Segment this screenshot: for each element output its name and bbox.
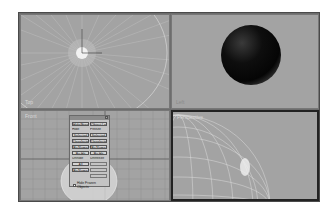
unhide-by-name-button[interactable]: By Name (72, 168, 89, 173)
hide-by-hit-button[interactable]: By Hit (72, 151, 89, 156)
viewport-left[interactable]: Left (171, 14, 319, 109)
close-icon[interactable] (105, 116, 108, 119)
hide-label: Hide (72, 128, 89, 132)
unhide-all-button[interactable]: All (72, 162, 89, 167)
hide-selected-button[interactable]: Selected (72, 133, 89, 138)
unfreeze-all-button[interactable] (90, 162, 107, 167)
unhide-label: Unhide (72, 157, 89, 161)
panel-titlebar[interactable] (70, 116, 109, 120)
unfreeze-by-name-button[interactable] (90, 168, 107, 173)
freeze-selected-button[interactable]: Selected (90, 133, 107, 138)
tab-object-level[interactable]: Object Level (90, 122, 107, 127)
tab-hide-freeze[interactable]: Hide/Freeze (72, 122, 89, 127)
unfreeze-label: Unfreeze (90, 157, 107, 161)
viewport-layout: Top Left (18, 12, 320, 202)
viewport-label[interactable]: Perspective (177, 114, 203, 120)
viewport-label[interactable]: Left (176, 99, 184, 105)
viewport-top[interactable]: Top (20, 14, 170, 109)
viewport-label[interactable]: Front (25, 113, 37, 119)
radial-grid (21, 15, 170, 109)
hide-unselected-button[interactable]: Unselected (72, 139, 89, 144)
viewport-front[interactable]: Hide/Freeze Object Level Hide Freeze Sel… (20, 110, 170, 201)
hide-frozen-label: Hide Frozen Objects (77, 181, 106, 189)
freeze-by-name-button[interactable]: By Name (90, 145, 107, 150)
wireframe-sphere (173, 112, 317, 199)
unfreeze-by-hit-button[interactable] (90, 174, 107, 179)
freeze-by-hit-button[interactable]: By Hit (90, 151, 107, 156)
freeze-unselected-button[interactable]: Unselected (90, 139, 107, 144)
viewport-label[interactable]: Top (25, 99, 33, 105)
hide-by-name-button[interactable]: By Name (72, 145, 89, 150)
hide-freeze-panel: Hide/Freeze Object Level Hide Freeze Sel… (69, 115, 110, 187)
freeze-label: Freeze (90, 128, 107, 132)
viewport-perspective[interactable]: Perspective (171, 110, 319, 201)
hide-frozen-checkbox[interactable] (73, 184, 76, 187)
shaded-sphere (172, 15, 319, 109)
